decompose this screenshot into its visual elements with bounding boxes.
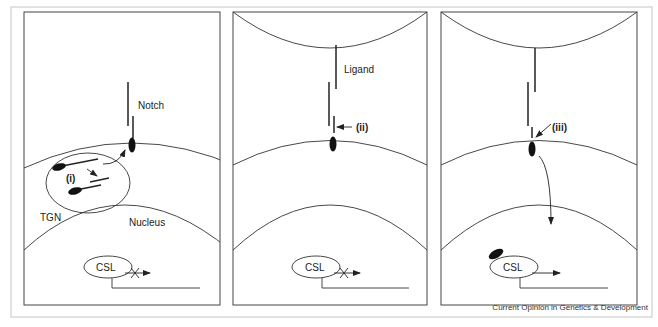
cell-membrane [441, 141, 637, 166]
gene-line [322, 278, 409, 288]
tgn-label: TGN [40, 212, 61, 223]
gene-line [520, 278, 608, 288]
s3-cleavage-arrow [536, 124, 551, 137]
notch-intracellular-domain [330, 137, 337, 152]
tgn-notch-1-icd [51, 162, 66, 172]
csl-label: CSL [503, 262, 523, 273]
csl-label: CSL [96, 262, 116, 273]
step-ii-label: (ii) [356, 122, 368, 133]
notch-intracellular-domain [529, 142, 536, 157]
signal-cell-membrane [441, 12, 637, 48]
gene-line [112, 278, 200, 288]
nuclear-translocation-arrow [539, 156, 551, 224]
panel-1: Notch (i) TGN Nucleus CSL [24, 12, 240, 305]
tgn-notch-2-line [81, 185, 101, 189]
tgn-notch-2-fragment [90, 178, 109, 182]
notch-intracellular-domain [129, 138, 136, 153]
nuclear-envelope [441, 205, 637, 250]
panel-3: (iii) CSL [441, 12, 637, 305]
panel-2: Ligand (ii) CSL [233, 12, 427, 305]
transport-arrow [103, 150, 125, 164]
step-iii-label: (iii) [552, 122, 567, 133]
tgn-notch-1-line [62, 159, 98, 166]
csl-label: CSL [305, 262, 325, 273]
tgn-compartment [46, 153, 130, 213]
panel-3-border [441, 12, 637, 305]
ligand-label: Ligand [344, 64, 374, 75]
figure-caption: Current Opinion in Genetics & Developmen… [492, 303, 648, 312]
nuclear-envelope [233, 205, 427, 250]
step-i-label: (i) [66, 173, 75, 184]
signal-cell-membrane [233, 12, 427, 48]
nucleus-label: Nucleus [129, 217, 165, 228]
notch-signaling-diagram: Notch (i) TGN Nucleus CSL Ligand [0, 0, 658, 327]
cleavage-arrow [87, 169, 97, 176]
tgn-notch-2-icd [67, 186, 82, 196]
notch-label: Notch [138, 100, 164, 111]
